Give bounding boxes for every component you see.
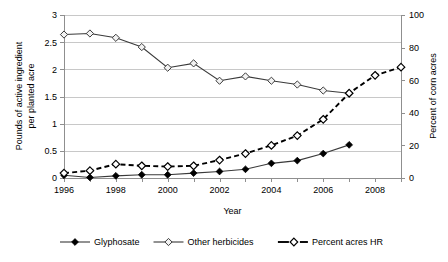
legend-label: Other herbicides bbox=[188, 237, 255, 247]
secondary-y-tick-label: 40 bbox=[409, 108, 419, 118]
secondary-y-tick-label: 100 bbox=[409, 10, 424, 20]
y-tick-label: 3 bbox=[52, 10, 57, 20]
x-tick-label: 2006 bbox=[313, 185, 333, 195]
y-tick-label: 1 bbox=[52, 119, 57, 129]
y-axis-title-line2: per planted acre bbox=[26, 63, 36, 128]
x-tick-label: 1998 bbox=[106, 185, 126, 195]
line-chart: 00.511.522.53 020406080100 1996199820002… bbox=[0, 0, 448, 262]
legend-label: Percent acres HR bbox=[312, 237, 384, 247]
chart-legend: GlyphosateOther herbicidesPercent acres … bbox=[60, 237, 383, 247]
x-tick-label: 2002 bbox=[210, 185, 230, 195]
legend-item-other-herbicides[interactable]: Other herbicides bbox=[154, 237, 255, 247]
x-tick-label: 2000 bbox=[158, 185, 178, 195]
y-tick-label: 2 bbox=[52, 65, 57, 75]
secondary-y-tick-label: 80 bbox=[409, 43, 419, 53]
chart-background bbox=[0, 0, 448, 262]
y-tick-label: 0 bbox=[52, 173, 57, 183]
y-tick-label: 2.5 bbox=[44, 38, 57, 48]
chart-container: 00.511.522.53 020406080100 1996199820002… bbox=[0, 0, 448, 262]
x-tick-label: 2004 bbox=[261, 185, 281, 195]
x-tick-label: 1996 bbox=[54, 185, 74, 195]
secondary-y-axis-title: Percent of corn acres bbox=[428, 53, 438, 139]
secondary-y-tick-label: 0 bbox=[409, 173, 414, 183]
y-axis-title-line1: Pounds of active ingredient bbox=[14, 41, 24, 150]
secondary-y-tick-label: 20 bbox=[409, 141, 419, 151]
y-tick-label: 1.5 bbox=[44, 92, 57, 102]
x-axis-title: Year bbox=[223, 206, 241, 216]
x-tick-label: 2008 bbox=[365, 185, 385, 195]
y-tick-label: 0.5 bbox=[44, 146, 57, 156]
legend-label: Glyphosate bbox=[94, 237, 140, 247]
secondary-y-tick-label: 60 bbox=[409, 76, 419, 86]
legend-item-percent-acres-hr[interactable]: Percent acres HR bbox=[278, 237, 384, 247]
